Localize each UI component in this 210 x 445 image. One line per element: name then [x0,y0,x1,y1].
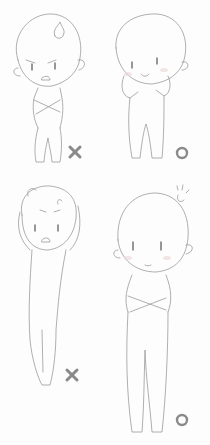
sketch-sheet [0,0,210,445]
right-mark-top-right [177,148,187,158]
chibi-pose-illustration [0,0,210,445]
figure-bottom-left [18,186,79,385]
figure-top-right [116,14,188,158]
figure-bottom-right [114,185,193,432]
wrong-mark-top-left [70,147,80,157]
figure-top-left [14,14,85,162]
right-mark-bottom-right [177,415,187,425]
wrong-mark-bottom-left [67,370,77,380]
